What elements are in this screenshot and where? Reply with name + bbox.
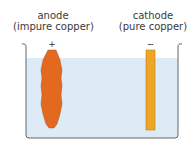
cathode-electrode — [146, 50, 155, 130]
anode-sign: + — [48, 39, 56, 49]
anode-electrode — [41, 50, 62, 128]
electrolysis-diagram: + − — [0, 0, 195, 145]
cathode-sign: − — [147, 39, 155, 49]
